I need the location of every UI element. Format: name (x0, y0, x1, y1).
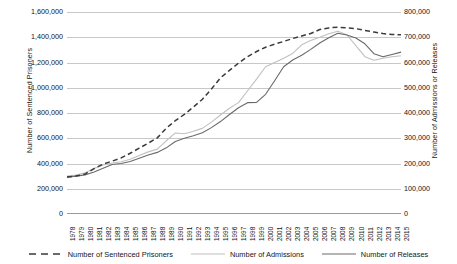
x-axis-tick-label: 2000 (268, 227, 274, 241)
y-axis-left-tick-label: 1,000,000 (5, 84, 63, 91)
x-axis-tick-label: 1991 (187, 227, 193, 241)
x-axis-tick-label: 1981 (97, 227, 103, 241)
legend-swatch (29, 250, 63, 258)
x-axis-tick-label: 1987 (151, 227, 157, 241)
y-axis-right-tick-label: 0 (404, 210, 457, 217)
x-axis-tick-label: 1989 (169, 227, 175, 241)
legend-item[interactable]: Number of Releases (322, 250, 428, 259)
x-axis-tick-label: 1993 (205, 227, 211, 241)
y-axis-left-tick-label: 1,600,000 (5, 8, 63, 15)
y-axis-left-tick-label: 800,000 (5, 109, 63, 116)
x-axis-tick-label: 1998 (250, 227, 256, 241)
x-axis-tick-label: 1986 (142, 227, 148, 241)
x-axis-tick-label: 1988 (160, 227, 166, 241)
y-axis-right-tick-label: 300,000 (404, 134, 457, 141)
series-line (67, 31, 401, 176)
x-axis-tick-label: 2006 (322, 227, 328, 241)
legend-label: Number of Admissions (230, 250, 304, 259)
x-axis-tick-label: 2003 (295, 227, 301, 241)
y-axis-left-tick-label: 200,000 (5, 185, 63, 192)
x-axis-tick-label: 2012 (377, 227, 383, 241)
x-axis-tick-label: 1990 (178, 227, 184, 241)
x-axis-tick-label: 1996 (232, 227, 238, 241)
legend-swatch (322, 250, 356, 258)
x-axis-tick-label: 2001 (277, 227, 283, 241)
x-axis-tick-label: 1984 (124, 227, 130, 241)
x-axis-ticks: 1978197919801981198219831984198519861987… (67, 216, 401, 250)
x-axis-tick-label: 1992 (196, 227, 202, 241)
y-axis-right-tick-label: 400,000 (404, 109, 457, 116)
x-axis-tick-label: 2011 (368, 227, 374, 241)
x-axis-tick-label: 2010 (359, 227, 365, 241)
y-axis-left-tick-label: 400,000 (5, 160, 63, 167)
legend-item[interactable]: Number of Sentenced Prisoners (29, 250, 173, 259)
x-axis-tick-label: 1979 (79, 227, 85, 241)
x-axis-tick-label: 2007 (331, 227, 337, 241)
y-axis-left-tick-label: 1,400,000 (5, 33, 63, 40)
y-axis-left-tick-label: 1,200,000 (5, 59, 63, 66)
x-axis-tick-label: 1995 (223, 227, 229, 241)
y-axis-right-tick-label: 800,000 (404, 8, 457, 15)
y-axis-left-tick-label: 0 (5, 210, 63, 217)
legend-label: Number of Releases (361, 250, 428, 259)
chart-container: Number of Sentenced Prisoners Number of … (0, 0, 457, 264)
y-axis-right-ticks: 0100,000200,000300,000400,000500,000600,… (404, 0, 457, 264)
x-axis-tick-label: 1978 (70, 227, 76, 241)
y-axis-right-tick-label: 700,000 (404, 33, 457, 40)
x-axis-tick-label: 1983 (115, 227, 121, 241)
x-axis-tick-label: 2014 (395, 227, 401, 241)
x-axis-tick-label: 2015 (404, 227, 410, 241)
chart-legend: Number of Sentenced PrisonersNumber of A… (0, 246, 457, 262)
y-axis-right-tick-label: 500,000 (404, 84, 457, 91)
x-axis-tick-label: 1999 (259, 227, 265, 241)
legend-label: Number of Sentenced Prisoners (68, 250, 173, 259)
x-axis-tick-label: 1985 (133, 227, 139, 241)
x-axis-tick-label: 1994 (214, 227, 220, 241)
series-layer (67, 12, 401, 214)
x-axis-tick-label: 1997 (241, 227, 247, 241)
x-axis-tick-label: 1982 (106, 227, 112, 241)
y-axis-left-ticks: 0200,000400,000600,000800,0001,000,0001,… (5, 0, 63, 264)
x-axis-tick-label: 2005 (313, 227, 319, 241)
y-axis-left-tick-label: 600,000 (5, 134, 63, 141)
x-axis-tick-label: 2009 (349, 227, 355, 241)
x-axis-tick-label: 1980 (88, 227, 94, 241)
x-axis-tick-label: 2008 (340, 227, 346, 241)
x-axis-tick-label: 2004 (304, 227, 310, 241)
legend-swatch (191, 250, 225, 258)
plot-area (67, 12, 401, 214)
legend-item[interactable]: Number of Admissions (191, 250, 304, 259)
y-axis-right-tick-label: 100,000 (404, 185, 457, 192)
y-axis-right-tick-label: 200,000 (404, 160, 457, 167)
y-axis-right-tick-label: 600,000 (404, 59, 457, 66)
x-axis-tick-label: 2002 (286, 227, 292, 241)
series-line (67, 27, 401, 177)
x-axis-tick-label: 2013 (386, 227, 392, 241)
